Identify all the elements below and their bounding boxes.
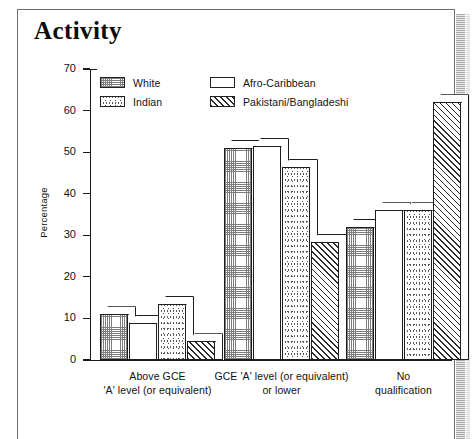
- y-axis-tick-label: 0: [46, 354, 76, 365]
- y-axis-label: Percentage: [38, 168, 49, 258]
- bar-pakistani-bangladeshi-2[interactable]: [311, 242, 339, 360]
- y-axis-tick-label: 50: [46, 146, 76, 157]
- x-axis-category-label-line: No: [309, 369, 476, 383]
- y-axis-tick-label: 70: [46, 63, 76, 74]
- x-axis-line: [90, 360, 452, 361]
- y-axis-tick-label: 60: [46, 105, 76, 116]
- y-axis-tick: [83, 68, 90, 69]
- y-axis-tick-label: 20: [46, 271, 76, 282]
- y-axis-tick: [83, 318, 90, 319]
- legend-item-pakistani-bangladeshi: Pakistani/Bangladeshi: [210, 96, 348, 108]
- x-axis-category-label-line: qualification: [309, 383, 476, 397]
- bar-pakistani-bangladeshi-3[interactable]: [433, 102, 461, 360]
- y-axis-tick-label: 10: [46, 312, 76, 323]
- legend-label: Indian: [133, 96, 162, 108]
- y-axis-tick: [83, 359, 90, 360]
- legend-swatch-pakistani-bangladeshi-icon: [210, 96, 235, 107]
- page-title: Activity: [34, 17, 122, 45]
- legend-label: White: [133, 77, 160, 89]
- bar-afro-caribbean-2[interactable]: [253, 146, 281, 360]
- y-axis-tick: [83, 193, 90, 194]
- y-axis-tick: [83, 235, 90, 236]
- y-axis-cap: [90, 69, 97, 70]
- legend-item-indian: Indian: [100, 96, 210, 108]
- legend-label: Afro-Caribbean: [243, 77, 316, 89]
- page-canvas: Activity 010203040506070 Percentage Whit…: [0, 0, 476, 439]
- bar-indian-2[interactable]: [282, 167, 310, 360]
- bar-indian-1[interactable]: [158, 304, 186, 360]
- chart-legend: White Afro-Caribbean Indian Pakistani/Ba…: [100, 73, 400, 111]
- bar-white-2[interactable]: [224, 148, 252, 360]
- legend-swatch-white-icon: [100, 77, 125, 88]
- bar-indian-3[interactable]: [404, 210, 432, 360]
- x-axis-category-label: Noqualification: [309, 369, 476, 397]
- legend-swatch-afro-caribbean-icon: [210, 77, 235, 88]
- legend-item-white: White: [100, 77, 210, 89]
- bar-white-3[interactable]: [346, 227, 374, 360]
- y-axis-tick: [83, 276, 90, 277]
- bar-afro-caribbean-1[interactable]: [129, 323, 157, 360]
- y-axis-tick: [83, 152, 90, 153]
- y-axis-tick-label: 30: [46, 229, 76, 240]
- bar-white-1[interactable]: [100, 314, 128, 360]
- bar-pakistani-bangladeshi-1[interactable]: [187, 341, 215, 360]
- legend-row: Indian Pakistani/Bangladeshi: [100, 92, 400, 111]
- y-axis-tick-label: 40: [46, 188, 76, 199]
- y-axis-tick: [83, 110, 90, 111]
- legend-row: White Afro-Caribbean: [100, 73, 400, 92]
- bar-chart: 010203040506070 Percentage White Afro-Ca…: [28, 57, 452, 385]
- bar-afro-caribbean-3[interactable]: [375, 210, 403, 360]
- legend-label: Pakistani/Bangladeshi: [243, 96, 348, 108]
- legend-item-afro-caribbean: Afro-Caribbean: [210, 77, 316, 89]
- y-axis-line: [90, 69, 91, 360]
- legend-swatch-indian-icon: [100, 96, 125, 107]
- bar-side-face: [460, 94, 469, 360]
